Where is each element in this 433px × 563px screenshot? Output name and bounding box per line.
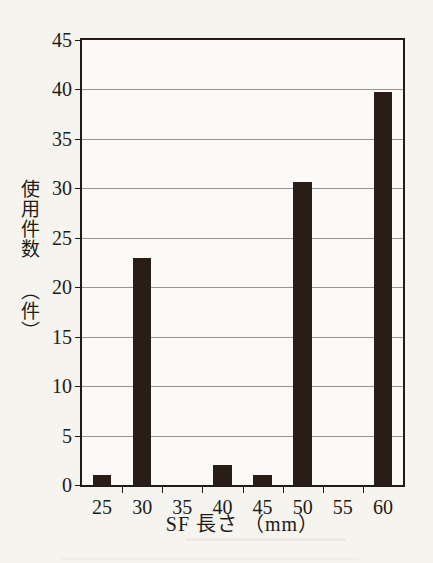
x-axis-tick bbox=[162, 485, 163, 493]
gridline bbox=[82, 139, 403, 140]
gridline bbox=[82, 287, 403, 288]
y-axis-tick-label: 15 bbox=[52, 327, 72, 347]
x-axis-tick bbox=[122, 485, 123, 493]
y-axis-tick bbox=[75, 139, 82, 140]
y-axis-tick bbox=[75, 436, 82, 437]
scan-artifact bbox=[60, 558, 360, 560]
y-axis-tick bbox=[75, 287, 82, 288]
x-axis-tick bbox=[243, 485, 244, 493]
bar bbox=[293, 182, 311, 485]
gridline bbox=[82, 337, 403, 338]
bar bbox=[253, 475, 271, 485]
gridline bbox=[82, 89, 403, 90]
bar bbox=[374, 92, 392, 485]
x-axis-title: SF 長さ （mm） bbox=[80, 508, 405, 537]
y-axis-tick-label: 0 bbox=[62, 475, 72, 495]
y-axis-tick bbox=[75, 386, 82, 387]
gridline bbox=[82, 436, 403, 437]
y-axis-tick-label: 25 bbox=[52, 228, 72, 248]
y-axis-title-text: 使用件数 （件） bbox=[16, 179, 43, 341]
bar-chart-figure: 使用件数 （件） 051015202530354045 253035404550… bbox=[0, 0, 433, 563]
y-axis-tick-label: 35 bbox=[52, 129, 72, 149]
y-axis-tick-label: 40 bbox=[52, 79, 72, 99]
gridline bbox=[82, 238, 403, 239]
y-axis-tick-label: 10 bbox=[52, 376, 72, 396]
y-axis-tick bbox=[75, 40, 82, 41]
x-axis-tick bbox=[323, 485, 324, 493]
plot-area: 051015202530354045 2530354045505560 bbox=[80, 38, 405, 487]
x-axis-tick bbox=[363, 485, 364, 493]
y-axis-tick bbox=[75, 238, 82, 239]
y-axis-tick-label: 20 bbox=[52, 277, 72, 297]
bar bbox=[213, 465, 231, 485]
y-axis-tick-label: 45 bbox=[52, 30, 72, 50]
x-axis-tick bbox=[283, 485, 284, 493]
y-axis-tick bbox=[75, 337, 82, 338]
gridline bbox=[82, 386, 403, 387]
y-axis-tick bbox=[75, 89, 82, 90]
x-axis-tick bbox=[202, 485, 203, 493]
gridline bbox=[82, 188, 403, 189]
y-axis-tick-label: 30 bbox=[52, 178, 72, 198]
bar bbox=[133, 258, 151, 485]
y-axis-title: 使用件数 （件） bbox=[14, 150, 44, 370]
y-axis-tick bbox=[75, 188, 82, 189]
scan-artifact bbox=[186, 538, 346, 541]
y-axis-tick-label: 5 bbox=[62, 426, 72, 446]
bar bbox=[93, 475, 111, 485]
y-axis-tick bbox=[75, 485, 82, 486]
